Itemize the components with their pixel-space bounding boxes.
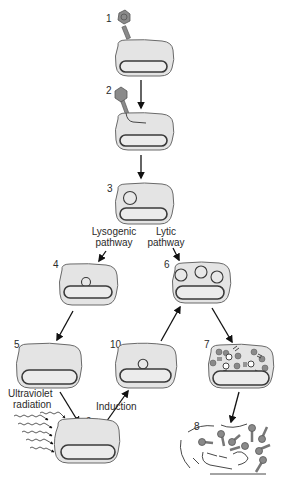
excising-prophage xyxy=(138,359,148,369)
integrating-phage-dna xyxy=(82,278,91,287)
stage-2: 2 xyxy=(106,85,174,150)
stage-number-2: 2 xyxy=(106,85,112,96)
replicated-phage-dna xyxy=(195,266,207,278)
lysogenic-label-line2: pathway xyxy=(95,237,132,248)
bacterial-chromosome xyxy=(120,369,171,382)
phage-icon xyxy=(118,10,130,39)
stage-1: 1 xyxy=(106,10,174,76)
stage-10: 10 xyxy=(110,339,177,388)
stage-4: 4 xyxy=(53,259,118,305)
stage-7: 7 xyxy=(204,339,274,388)
arrow-3-to-4 xyxy=(99,251,106,261)
stage-number-4: 4 xyxy=(53,259,59,270)
bacterial-chromosome xyxy=(120,208,167,220)
arrow-6-to-7 xyxy=(212,308,232,342)
bacterial-chromosome-with-prophage xyxy=(22,370,77,384)
uv-label-line1: Ultraviolet xyxy=(8,388,53,399)
phage-life-cycle-diagram: 1 2 3 Lysogenic pathway Lytic pathway xyxy=(0,0,285,486)
stage-9: 9 xyxy=(54,416,119,463)
lysogenic-label-line1: Lysogenic xyxy=(92,226,137,237)
stage-number-6: 6 xyxy=(164,259,170,270)
arrow-10-to-6 xyxy=(161,307,180,341)
bacterial-chromosome xyxy=(64,286,112,298)
circular-phage-dna xyxy=(124,192,137,205)
bacterial-chromosome xyxy=(213,371,269,385)
lytic-label-line2: pathway xyxy=(147,237,184,248)
induction-label: Induction xyxy=(96,401,137,412)
stage-6: 6 xyxy=(164,259,231,303)
lytic-label-line1: Lytic xyxy=(156,226,176,237)
bacterial-chromosome-with-prophage xyxy=(61,445,115,459)
bacterial-chromosome xyxy=(120,135,167,146)
replicated-phage-dna xyxy=(211,271,223,283)
phage-icon xyxy=(115,87,129,115)
stage-number-3: 3 xyxy=(107,183,113,194)
arrow-7-to-8 xyxy=(231,392,239,422)
stage-number-1: 1 xyxy=(106,13,112,24)
replicated-phage-dna xyxy=(175,269,187,281)
arrow-3-to-6 xyxy=(173,248,179,260)
arrow-4-to-5 xyxy=(57,311,73,340)
bacterial-chromosome xyxy=(176,286,224,299)
stage-5: 5 xyxy=(14,339,82,388)
stage-3: 3 xyxy=(107,183,174,224)
stage-8: 8 xyxy=(180,421,270,474)
uv-label-line2: radiation xyxy=(13,399,51,410)
stage-number-7: 7 xyxy=(204,339,210,350)
bacterial-chromosome xyxy=(120,61,167,72)
